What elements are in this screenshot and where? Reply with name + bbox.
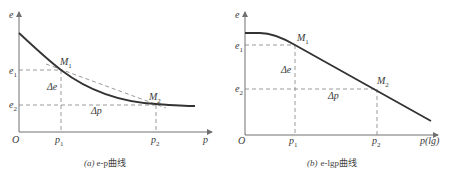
x-axis-label: p <box>202 134 208 145</box>
e-lgp-curve <box>245 33 431 121</box>
delta-p-label: Δp <box>327 90 339 101</box>
e1-label: e1 <box>9 65 17 79</box>
compression-curves-figure: e e1 e2 M1 M2 Δe Δp O p1 p2 p (a)e-p曲线 e… <box>0 0 451 181</box>
y-axis-label: e <box>9 9 14 20</box>
delta-e-label: Δe <box>280 64 292 75</box>
p1-label: p1 <box>288 135 298 149</box>
figure-a-e-p-curve: e e1 e2 M1 M2 Δe Δp O p1 p2 p (a)e-p曲线 <box>9 9 212 168</box>
p2-label: p2 <box>150 134 160 148</box>
p1-label: p1 <box>54 134 64 148</box>
caption-b: (b)e-lgp曲线 <box>307 157 357 168</box>
secant-line <box>46 64 166 108</box>
delta-p-label: Δp <box>90 105 102 116</box>
e1-label: e1 <box>235 40 243 54</box>
y-axis-label: e <box>235 9 240 20</box>
m1-label: M1 <box>296 32 309 46</box>
caption-a: (a)e-p曲线 <box>84 157 126 168</box>
origin-label: O <box>12 134 19 145</box>
e2-label: e2 <box>9 99 17 113</box>
figure-b-e-lgp-curve: e e1 e2 M1 M2 Δe Δp O p1 p2 p(lg) (b)e-l… <box>235 9 440 168</box>
m1-label: M1 <box>59 56 72 70</box>
p2-label: p2 <box>371 135 381 149</box>
e-p-curve <box>19 33 195 106</box>
x-axis-label: p(lg) <box>419 135 440 147</box>
e2-label: e2 <box>235 83 243 97</box>
delta-e-label: Δe <box>46 81 58 92</box>
origin-label: O <box>238 135 245 146</box>
m2-label: M2 <box>376 75 389 89</box>
